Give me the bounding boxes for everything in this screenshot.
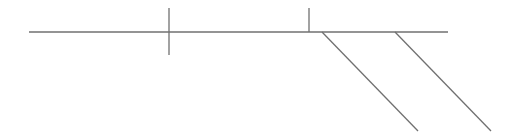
line-diagram — [0, 0, 512, 139]
diagonal-branch-1 — [322, 32, 418, 131]
diagonal-branch-2 — [395, 32, 491, 131]
